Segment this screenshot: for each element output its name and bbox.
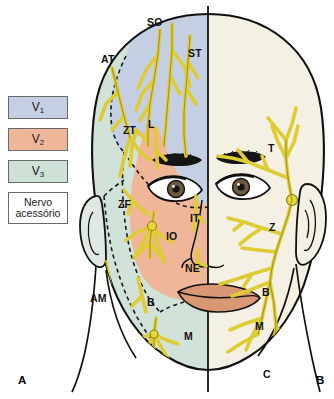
mental-plexus-node <box>150 330 158 338</box>
label-am: AM <box>90 292 107 304</box>
ear-right <box>296 184 326 265</box>
legend-accessory-line2: acessório <box>16 208 61 219</box>
label-st: ST <box>188 47 202 59</box>
label-zt: ZT <box>123 124 136 136</box>
label-b-left: B <box>147 296 155 308</box>
label-l: L <box>148 118 155 130</box>
panel-label-b: B <box>316 374 324 386</box>
label-it: IT <box>190 212 200 224</box>
label-zf: ZF <box>118 198 131 210</box>
legend-v1-label: V1 <box>32 100 44 115</box>
label-b-right: B <box>262 286 270 298</box>
label-so: SO <box>147 16 163 28</box>
legend-item-v1: V1 <box>8 96 68 119</box>
label-ne: NE <box>185 262 200 274</box>
label-t: T <box>268 142 275 154</box>
legend-item-v2: V2 <box>8 128 68 151</box>
label-at: AT <box>101 53 115 65</box>
panel-label-a: A <box>18 374 26 386</box>
label-io: IO <box>166 230 178 242</box>
label-m-right: M <box>255 320 264 332</box>
legend: V1 V2 V3 Nervo acessório <box>8 96 72 233</box>
legend-item-nervo-acessorio: Nervo acessório <box>8 192 68 224</box>
label-z: Z <box>269 221 276 233</box>
label-m-left: M <box>184 330 193 342</box>
legend-v3-label: V3 <box>32 164 44 179</box>
legend-item-v3: V3 <box>8 160 68 183</box>
infraorbital-plexus-node <box>148 222 157 231</box>
ear-left <box>80 196 106 267</box>
label-c: C <box>263 368 271 380</box>
figure-root: V1 V2 V3 Nervo acessório SO AT ST ZT L Z… <box>0 0 334 399</box>
legend-v2-label: V2 <box>32 132 44 147</box>
